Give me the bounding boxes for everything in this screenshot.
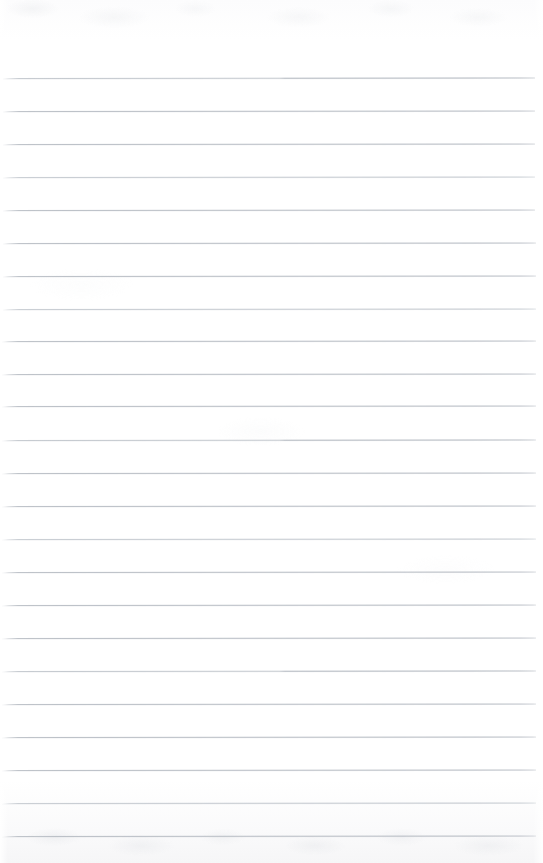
- writing-area[interactable]: [3, 46, 536, 852]
- notebook-page: [0, 0, 543, 863]
